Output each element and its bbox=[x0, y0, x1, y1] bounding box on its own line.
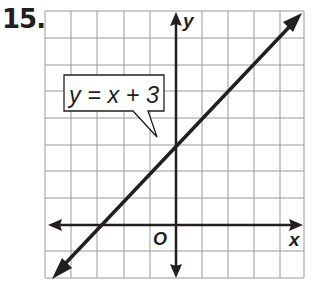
y-axis-down-arrow-icon bbox=[170, 264, 182, 278]
x-axis-label: x bbox=[288, 229, 301, 250]
x-axis-left-arrow-icon bbox=[48, 219, 62, 231]
y-axis-label: y bbox=[182, 10, 195, 31]
equation-label: y = x + 3 bbox=[67, 81, 160, 108]
y-axis-up-arrow-icon bbox=[170, 12, 182, 26]
coordinate-graph: y = x + 3 y x O bbox=[0, 0, 314, 293]
origin-label: O bbox=[153, 229, 167, 249]
